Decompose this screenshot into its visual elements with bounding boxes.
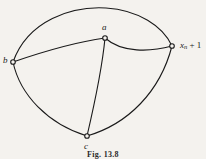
figure-container: b a c xn + 1 Fig. 13.8 [0,0,206,159]
node-label-a-text: a [102,22,107,32]
node-xn1[interactable] [170,44,175,49]
node-label-a: a [102,23,107,32]
node-label-xn1: xn + 1 [180,41,201,51]
edge-a-to-xn1 [105,38,172,50]
edge-c-to-xn1 [87,46,172,136]
node-c[interactable] [85,134,90,139]
node-label-b-text: b [3,55,8,65]
node-label-b: b [3,56,8,65]
node-a[interactable] [103,36,108,41]
edge-b-to-c [13,62,87,136]
edge-b-to-a [13,38,105,62]
node-label-xn1-suffix: + 1 [187,40,201,50]
figure-caption: Fig. 13.8 [0,150,206,159]
node-b[interactable] [11,60,16,65]
edge-a-to-c [87,38,105,136]
